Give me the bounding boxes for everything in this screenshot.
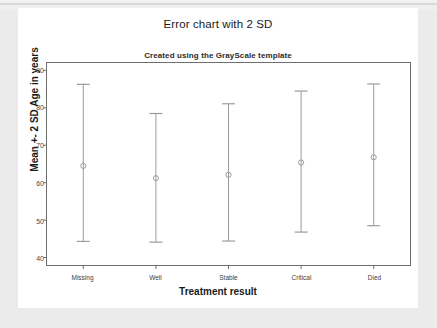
error-bar-died: [367, 84, 380, 226]
y-tick-label: 80: [22, 104, 44, 111]
error-bar-plot: [47, 63, 410, 265]
chart-title: Error chart with 2 SD: [18, 18, 418, 30]
y-tick-label: 70: [22, 142, 44, 149]
x-axis-title: Treatment result: [18, 286, 418, 297]
x-tick-label: Died: [340, 274, 410, 281]
error-bar-stable: [222, 104, 235, 241]
x-tick-label: Stable: [194, 274, 264, 281]
x-tick-label: Well: [121, 274, 191, 281]
error-bar-missing: [77, 84, 90, 241]
error-bar-well: [149, 114, 162, 243]
y-tick-label: 50: [22, 217, 44, 224]
y-tick-label: 90: [22, 66, 44, 73]
y-tick-label: 40: [22, 255, 44, 262]
error-bar-critical: [295, 91, 308, 232]
y-tick-label: 60: [22, 179, 44, 186]
x-axis-ticks: MissingWellStableCriticalDied: [46, 266, 411, 286]
x-tick-label: Critical: [267, 274, 337, 281]
x-tick-label: Missing: [48, 274, 118, 281]
y-axis-ticks: 405060708090: [18, 62, 44, 266]
plot-area: [46, 62, 411, 266]
chart-card: Error chart with 2 SD Created using the …: [18, 8, 418, 308]
chart-subtitle: Created using the GrayScale template: [18, 51, 418, 60]
